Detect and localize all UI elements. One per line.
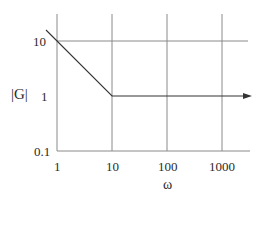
- magnitude-asymptote: [46, 30, 245, 96]
- y-tick-1: 1: [41, 90, 48, 103]
- x-tick-100: 100: [158, 160, 178, 173]
- x-axis-label: ω: [163, 178, 172, 191]
- y-tick-0.1: 0.1: [34, 145, 50, 158]
- y-axis-label: |G|: [11, 87, 28, 102]
- x-tick-1000: 1000: [209, 160, 235, 173]
- y-tick-10: 10: [33, 35, 46, 48]
- x-tick-1: 1: [54, 160, 61, 173]
- arrow-head-icon: [243, 93, 252, 99]
- x-tick-10: 10: [106, 160, 119, 173]
